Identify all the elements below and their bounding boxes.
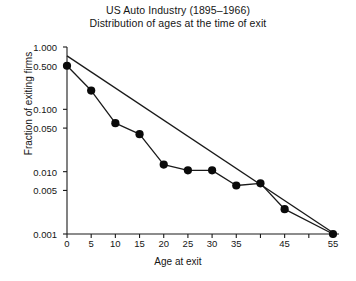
data-point-marker: [160, 160, 168, 168]
chart-figure: US Auto Industry (1895–1966) Distributio…: [0, 0, 356, 281]
data-point-marker: [256, 179, 264, 187]
data-point-marker: [208, 166, 216, 174]
data-point-marker: [281, 205, 289, 213]
data-point-marker: [232, 181, 240, 189]
fit-line: [67, 56, 333, 233]
data-line: [67, 66, 333, 234]
data-point-marker: [63, 62, 71, 70]
data-point-marker: [135, 130, 143, 138]
data-point-marker: [111, 119, 119, 127]
data-markers: [63, 62, 337, 238]
data-point-marker: [329, 230, 337, 238]
data-point-marker: [87, 86, 95, 94]
fit-line-path: [67, 56, 333, 233]
data-point-marker: [184, 166, 192, 174]
data-line-path: [67, 66, 333, 234]
plot-area: [0, 0, 356, 281]
